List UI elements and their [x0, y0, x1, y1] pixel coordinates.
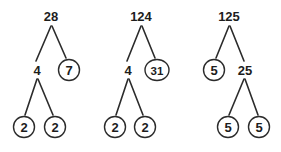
tree-edge [142, 26, 155, 58]
composite-node: 4 [124, 63, 132, 78]
node-value: 125 [218, 9, 240, 24]
factor-tree-diagram: 2847221244312212552555 [0, 0, 281, 152]
prime-factor-node: 31 [145, 60, 169, 81]
prime-factor-node: 2 [135, 117, 156, 138]
tree-edge [230, 26, 244, 61]
composite-node: 28 [44, 9, 58, 24]
node-value: 25 [238, 63, 252, 78]
composite-node: 124 [130, 9, 152, 24]
node-value: 124 [130, 9, 152, 24]
factor-tree-28: 284722 [14, 9, 80, 138]
node-value: 5 [210, 63, 217, 78]
tree-edge [25, 79, 37, 115]
prime-factor-node: 2 [45, 117, 66, 138]
node-value: 4 [33, 63, 41, 78]
node-value: 2 [141, 120, 148, 135]
prime-factor-node: 5 [218, 117, 239, 138]
prime-factor-node: 2 [14, 117, 35, 138]
diagram-canvas: 2847221244312212552555 [0, 0, 281, 152]
tree-edge [38, 79, 53, 115]
tree-edge [36, 26, 51, 61]
node-value: 2 [20, 120, 27, 135]
factor-tree-124-edges [116, 26, 155, 115]
tree-edge [229, 79, 244, 115]
tree-edge [129, 79, 143, 115]
node-value: 31 [151, 65, 164, 77]
node-value: 2 [51, 120, 58, 135]
factor-tree-124: 12443122 [105, 9, 170, 138]
prime-factor-node: 7 [59, 60, 80, 81]
composite-node: 4 [33, 63, 41, 78]
tree-edge [245, 79, 258, 115]
factor-tree-28-edges [25, 26, 66, 115]
tree-edge [127, 26, 141, 61]
tree-edge [52, 26, 66, 58]
node-value: 2 [111, 120, 118, 135]
node-value: 28 [44, 9, 58, 24]
node-value: 7 [65, 63, 72, 78]
composite-node: 25 [238, 63, 252, 78]
prime-factor-node: 5 [204, 60, 225, 81]
edge-layer [25, 26, 258, 115]
factor-tree-125: 12552555 [204, 9, 270, 138]
node-value: 4 [124, 63, 132, 78]
tree-edge [216, 26, 229, 58]
composite-node: 125 [218, 9, 240, 24]
node-value: 5 [224, 120, 231, 135]
node-value: 5 [255, 120, 262, 135]
tree-edge [116, 79, 128, 115]
prime-factor-node: 2 [105, 117, 126, 138]
prime-factor-node: 5 [249, 117, 270, 138]
